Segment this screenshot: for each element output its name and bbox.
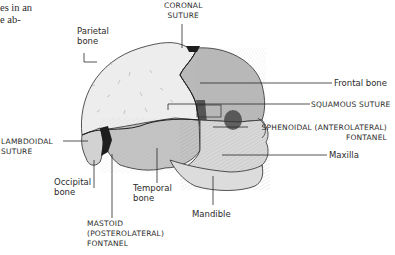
label-mastoid-line1: MASTOID [87, 219, 164, 229]
label-coronal-line2: SUTURE [164, 11, 203, 21]
label-frontal-bone: Frontal bone [334, 78, 387, 88]
label-mandible: Mandible [192, 209, 231, 219]
label-coronal-suture: CORONAL SUTURE [164, 1, 203, 21]
label-maxilla: Maxilla [329, 150, 359, 160]
label-squamous-suture: SQUAMOUS SUTURE [311, 100, 391, 110]
label-parietal-bone: Parietal bone [77, 26, 109, 46]
label-sphenoidal-line1: SPHENOIDAL (ANTEROLATERAL) [262, 123, 387, 133]
label-occipital-line2: bone [54, 187, 91, 197]
label-lambdoidal-suture: LAMBDOIDAL SUTURE [1, 137, 53, 157]
label-temporal-line1: Temporal [133, 183, 172, 193]
label-occipital-bone: Occipital bone [54, 177, 91, 197]
label-temporal-line2: bone [133, 193, 172, 203]
label-sphenoidal-line2: FONTANEL [262, 133, 387, 143]
label-mastoid-line2: (POSTEROLATERAL) [87, 229, 164, 239]
label-mastoid-fontanel: MASTOID (POSTEROLATERAL) FONTANEL [87, 219, 164, 249]
label-sphenoidal-fontanel: SPHENOIDAL (ANTEROLATERAL) FONTANEL [262, 123, 387, 143]
label-mastoid-line3: FONTANEL [87, 239, 164, 249]
label-lambdoidal-line2: SUTURE [1, 147, 53, 157]
label-temporal-bone: Temporal bone [133, 183, 172, 203]
label-occipital-line1: Occipital [54, 177, 91, 187]
label-parietal-line1: Parietal [77, 26, 109, 36]
label-lambdoidal-line1: LAMBDOIDAL [1, 137, 53, 147]
label-coronal-line1: CORONAL [164, 1, 203, 11]
label-parietal-line2: bone [77, 36, 109, 46]
